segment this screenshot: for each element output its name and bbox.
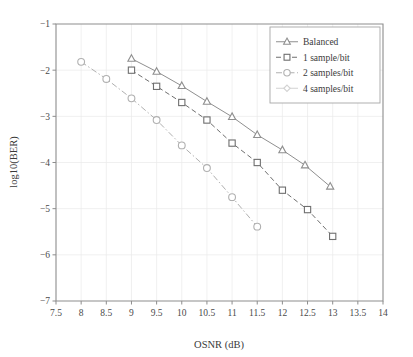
data-point-marker [178,142,185,149]
data-point-marker [179,99,185,105]
data-point-marker [279,187,285,193]
y-tick-label: −3 [40,112,50,122]
data-point-marker [153,117,160,124]
data-point-marker [254,223,261,230]
x-tick-label: 8.5 [100,308,112,318]
data-point-marker [304,206,310,212]
y-tick-label: −7 [40,296,50,306]
data-point-marker [128,67,134,73]
legend-label: Balanced [303,37,339,47]
data-point-marker [284,54,290,60]
x-tick-label: 10.5 [199,308,216,318]
legend-label: 4 samples/bit [303,84,354,94]
data-point-marker [330,233,336,239]
x-tick-label: 14 [378,308,388,318]
data-point-marker [204,165,211,172]
x-tick-label: 12 [278,308,288,318]
y-axis-title: log10(BER) [8,136,20,188]
x-tick-label: 7.5 [50,308,62,318]
data-point-marker [203,98,210,105]
data-point-marker [229,140,235,146]
x-tick-label: 9 [129,308,134,318]
data-point-marker [178,82,185,89]
data-point-marker [254,131,261,138]
y-tick-label: −5 [40,204,50,214]
data-point-marker [103,76,110,83]
data-point-marker [279,146,286,153]
x-tick-label: 9.5 [151,308,163,318]
legend-label: 1 sample/bit [303,53,350,63]
y-tick-label: −2 [40,66,50,76]
legend-label: 2 samples/bit [303,68,354,78]
data-point-marker [78,58,85,65]
x-tick-label: 11.5 [249,308,266,318]
data-point-marker [229,194,236,201]
chart-svg: 7.588.599.51010.51111.51212.51313.514−1−… [0,0,413,357]
x-tick-label: 13.5 [350,308,367,318]
data-point-marker [284,70,290,76]
data-point-marker [204,117,210,123]
y-tick-label: −4 [40,158,50,168]
x-axis-title: OSNR (dB) [194,339,244,351]
x-tick-label: 11 [227,308,236,318]
chart-figure: 7.588.599.51010.51111.51212.51313.514−1−… [0,0,413,357]
y-tick-label: −6 [40,250,50,260]
data-point-marker [153,68,160,75]
x-tick-label: 13 [328,308,338,318]
x-tick-label: 8 [79,308,84,318]
data-point-marker [128,55,135,62]
y-tick-label: −1 [40,19,50,29]
data-point-marker [128,95,135,102]
x-tick-label: 12.5 [299,308,316,318]
legend-layer: Balanced1 sample/bit2 samples/bit4 sampl… [270,27,380,103]
data-point-marker [254,159,260,165]
x-tick-label: 10 [177,308,187,318]
data-point-marker [153,83,159,89]
